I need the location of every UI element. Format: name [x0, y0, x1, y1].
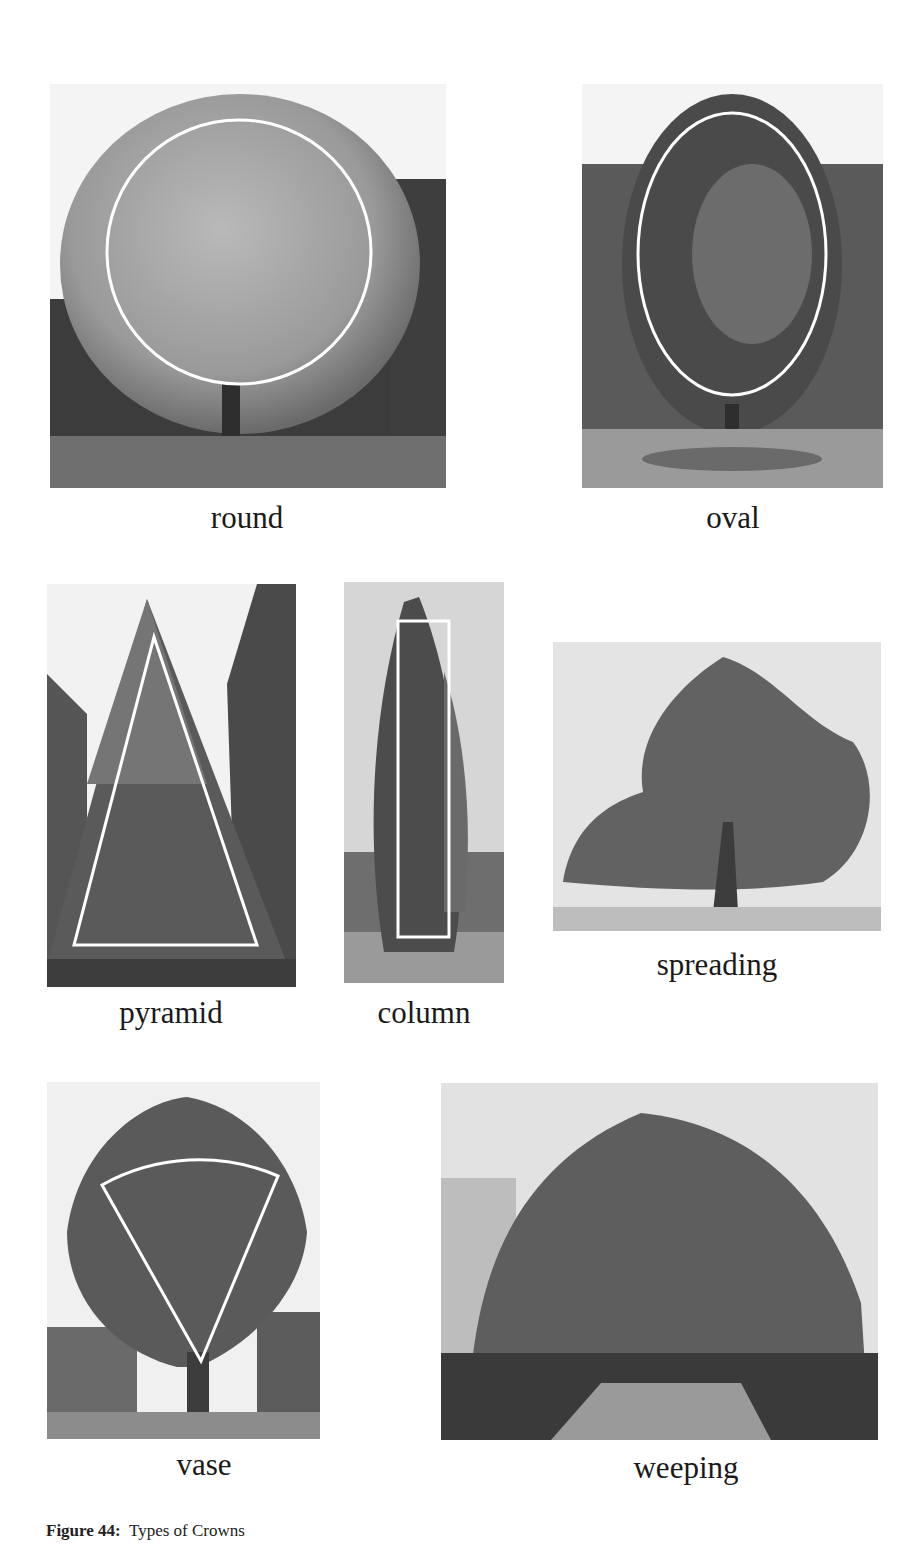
photo-spreading-tree	[553, 642, 881, 931]
label-vase: vase	[176, 1447, 231, 1483]
sector-overlay	[47, 1082, 320, 1439]
label-pyramid: pyramid	[119, 995, 222, 1031]
photo-column-tree	[344, 582, 504, 983]
photo-round-tree	[50, 84, 446, 488]
circle-overlay	[50, 84, 446, 488]
photo-vase-tree	[47, 1082, 320, 1439]
figure-title: Types of Crowns	[129, 1521, 245, 1540]
label-spreading: spreading	[657, 947, 778, 983]
label-column: column	[378, 995, 471, 1031]
ellipse-overlay	[582, 84, 883, 488]
label-weeping: weeping	[633, 1450, 738, 1486]
label-round: round	[211, 500, 283, 536]
photo-pyramid-tree	[47, 584, 296, 987]
figure-caption: Figure 44: Types of Crowns	[46, 1521, 245, 1541]
label-oval: oval	[706, 500, 759, 536]
photo-weeping-tree	[441, 1083, 878, 1440]
triangle-overlay	[47, 584, 296, 987]
figure-number: Figure 44:	[46, 1521, 121, 1540]
photo-oval-tree	[582, 84, 883, 488]
rectangle-overlay	[344, 582, 504, 983]
